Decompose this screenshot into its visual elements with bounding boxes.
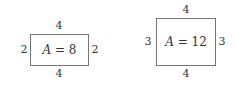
rect1-left-label: 2 [19, 44, 29, 56]
rect1-area-label: A = 8 [43, 43, 77, 57]
rect2-box: A = 12 [156, 18, 216, 66]
rect1-right-label: 2 [90, 44, 100, 56]
rect2-right-label: 3 [217, 36, 227, 48]
rect2-left-label: 3 [143, 36, 153, 48]
rect1-top-label: 4 [53, 20, 65, 32]
rect1-box: A = 8 [30, 34, 89, 66]
rect2-area-label: A = 12 [165, 35, 207, 49]
rect2-bottom-label: 4 [180, 68, 192, 80]
rect1-bottom-label: 4 [53, 68, 65, 80]
rect2-top-label: 4 [180, 4, 192, 16]
